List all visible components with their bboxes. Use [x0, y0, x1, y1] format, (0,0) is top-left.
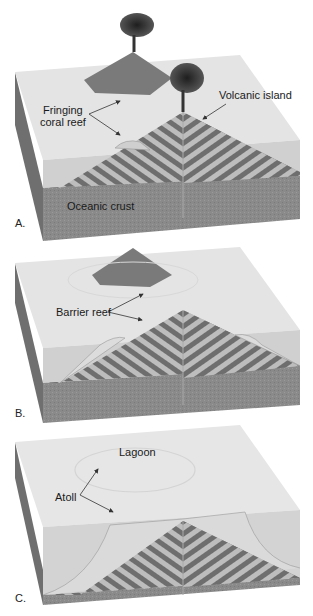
label-fringing-reef-line1: Fringing: [43, 104, 83, 116]
label-atoll: Atoll: [55, 491, 76, 503]
panel-c: [15, 425, 300, 605]
panel-letter-c: C.: [15, 592, 26, 604]
label-fringing-reef-line2: coral reef: [40, 116, 86, 128]
label-lagoon: Lagoon: [119, 446, 156, 458]
label-oceanic-crust: Oceanic crust: [67, 200, 134, 212]
label-volcanic-island: Volcanic island: [219, 89, 292, 101]
label-barrier-reef: Barrier reef: [56, 306, 111, 318]
panel-letter-a: A.: [15, 217, 25, 229]
panel-b: [15, 247, 300, 423]
panel-letter-b: B.: [15, 407, 25, 419]
